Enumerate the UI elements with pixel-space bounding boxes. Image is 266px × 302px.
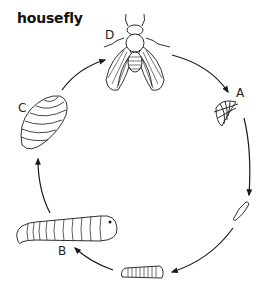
young-larva-icon [122, 266, 164, 278]
arrow-d-to-a [172, 55, 228, 92]
hatchling-larva-icon [233, 202, 248, 220]
arrow-egg-to-young-larva [172, 228, 233, 272]
mature-larva-icon [17, 216, 117, 244]
adult-fly-icon [104, 14, 170, 90]
arrow-b-to-c [38, 159, 50, 213]
arrow-young-larva-to-b [75, 248, 113, 270]
pupa-icon [21, 96, 67, 149]
arrow-a-to-egg [244, 118, 250, 195]
egg-cluster-icon [214, 101, 238, 126]
life-cycle-diagram [0, 0, 266, 302]
arrow-c-to-d [62, 60, 105, 90]
